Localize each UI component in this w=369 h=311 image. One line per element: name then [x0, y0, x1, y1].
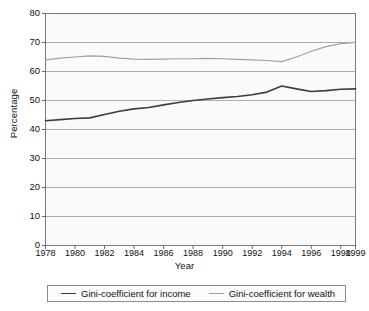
- legend-entry-wealth: Gini-coefficient for wealth: [209, 288, 336, 299]
- legend-label-wealth: Gini-coefficient for wealth: [229, 288, 336, 299]
- x-tick-label-1990: 1990: [213, 248, 233, 258]
- y-tick-label-10: 10: [14, 211, 40, 221]
- x-tick-label-1984: 1984: [124, 248, 144, 258]
- x-tick-label-1986: 1986: [154, 248, 174, 258]
- y-axis-title: Percentage: [8, 79, 19, 149]
- gini-coefficient-line-chart: 80706050403020100 1978198019821984198619…: [0, 0, 369, 311]
- x-tick-label-1978: 1978: [35, 248, 55, 258]
- y-tick-label-20: 20: [14, 182, 40, 192]
- x-tick-label-1999: 1999: [345, 248, 365, 258]
- y-tick-label-60: 60: [14, 66, 40, 76]
- x-tick-label-1996: 1996: [301, 248, 321, 258]
- x-tick-label-1992: 1992: [242, 248, 262, 258]
- y-tick-label-30: 30: [14, 153, 40, 163]
- legend-line-swatch-income: [61, 293, 76, 294]
- legend-line-swatch-wealth: [209, 293, 224, 294]
- x-axis-title: Year: [0, 260, 369, 271]
- legend-entry-income: Gini-coefficient for income: [61, 288, 191, 299]
- y-tick-label-80: 80: [14, 8, 40, 18]
- y-tick-label-70: 70: [14, 37, 40, 47]
- x-tick-label-1982: 1982: [95, 248, 115, 258]
- x-tick-label-1980: 1980: [65, 248, 85, 258]
- x-tick-label-1988: 1988: [183, 248, 203, 258]
- x-tick-label-1994: 1994: [272, 248, 292, 258]
- chart-legend: Gini-coefficient for income Gini-coeffic…: [47, 285, 346, 302]
- legend-label-income: Gini-coefficient for income: [81, 288, 191, 299]
